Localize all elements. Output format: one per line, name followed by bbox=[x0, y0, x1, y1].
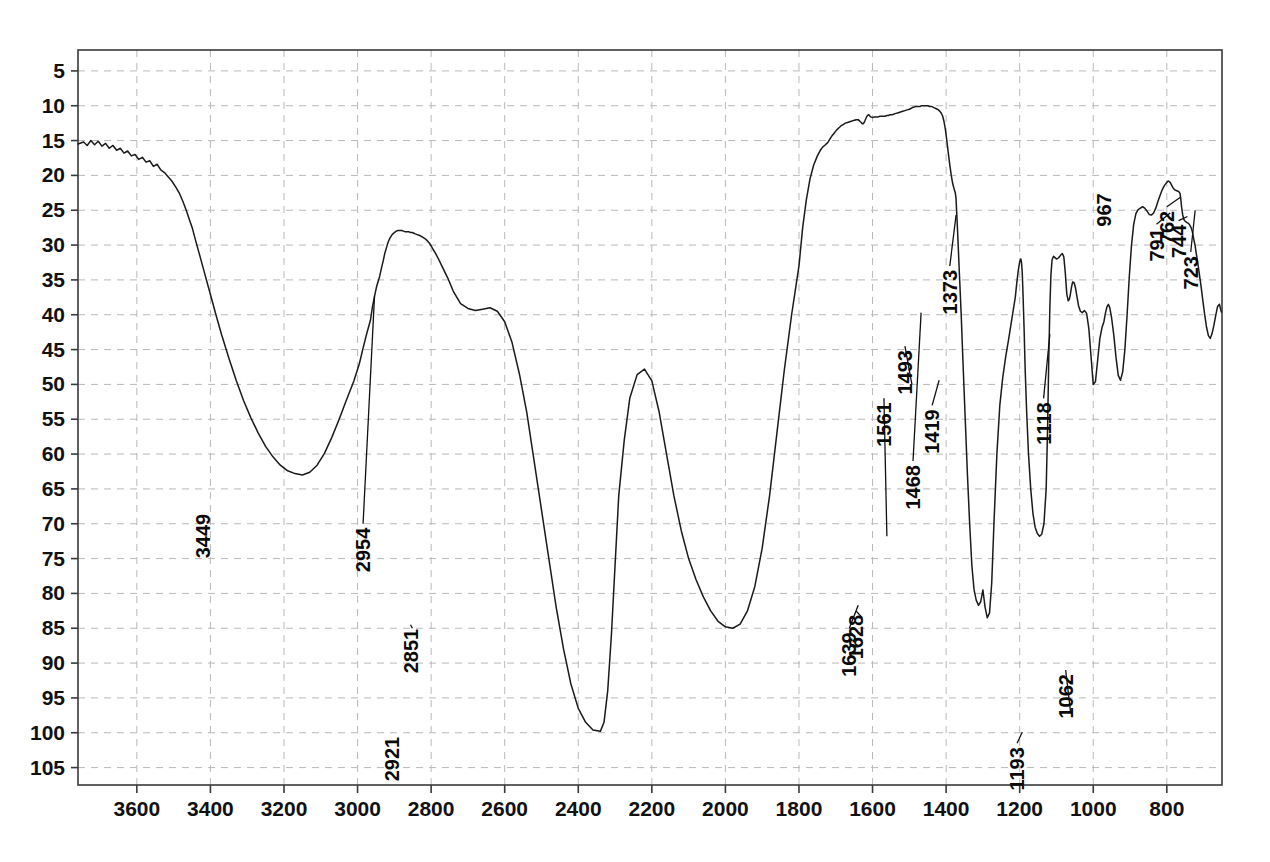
x-tick-label: 3200 bbox=[261, 797, 308, 820]
y-tick-label: 80 bbox=[42, 581, 65, 604]
x-tick-label: 2400 bbox=[555, 797, 602, 820]
peak-label: 1493 bbox=[894, 350, 916, 395]
y-tick-label: 15 bbox=[42, 129, 66, 152]
peak-label: 1373 bbox=[939, 270, 961, 315]
x-tick-label: 1000 bbox=[1070, 797, 1117, 820]
y-tick-label: 10 bbox=[42, 94, 65, 117]
x-axis-tick-labels: 3600340032003000280026002400220020001800… bbox=[113, 797, 1184, 820]
x-tick-label: 1600 bbox=[849, 797, 896, 820]
peak-label: 1561 bbox=[873, 402, 895, 447]
x-tick-label: 2200 bbox=[628, 797, 675, 820]
peak-label: 1062 bbox=[1055, 674, 1077, 719]
y-tick-label: 85 bbox=[42, 616, 66, 639]
peak-label: 1468 bbox=[902, 465, 924, 510]
x-tick-label: 2800 bbox=[408, 797, 455, 820]
y-tick-label: 45 bbox=[42, 338, 66, 361]
y-tick-label: 50 bbox=[42, 372, 65, 395]
y-tick-label: 20 bbox=[42, 163, 65, 186]
peak-label: 2851 bbox=[400, 629, 422, 674]
x-tick-label: 3600 bbox=[113, 797, 160, 820]
x-tick-label: 1800 bbox=[776, 797, 823, 820]
y-tick-label: 25 bbox=[42, 198, 66, 221]
peak-label: 1118 bbox=[1033, 402, 1055, 444]
x-tick-label: 2000 bbox=[702, 797, 749, 820]
peak-label: 2954 bbox=[352, 527, 374, 572]
peak-label: 967 bbox=[1093, 193, 1115, 226]
peak-label: 744 bbox=[1168, 224, 1190, 258]
x-tick-label: 800 bbox=[1149, 797, 1184, 820]
peak-label: 723 bbox=[1180, 256, 1202, 289]
peak-label: 1419 bbox=[921, 409, 943, 454]
y-tick-label: 5 bbox=[53, 59, 65, 82]
y-tick-label: 70 bbox=[42, 512, 65, 535]
y-tick-label: 75 bbox=[42, 547, 66, 570]
x-tick-label: 1400 bbox=[923, 797, 970, 820]
peak-label: 2921 bbox=[382, 737, 404, 782]
x-tick-label: 3400 bbox=[187, 797, 234, 820]
ir-spectrum-figure: 1051009590858075706560555045403530252015… bbox=[0, 0, 1270, 862]
y-tick-label: 105 bbox=[30, 756, 65, 779]
y-tick-label: 95 bbox=[42, 686, 66, 709]
x-tick-label: 3000 bbox=[334, 797, 381, 820]
y-tick-label: 90 bbox=[42, 651, 65, 674]
x-tick-label: 2600 bbox=[481, 797, 528, 820]
peak-label: 1628 bbox=[845, 615, 867, 660]
x-tick-label: 1200 bbox=[996, 797, 1043, 820]
spectrum-canvas: 1051009590858075706560555045403530252015… bbox=[0, 0, 1270, 862]
y-tick-label: 60 bbox=[42, 442, 65, 465]
peak-label: 3449 bbox=[192, 514, 214, 559]
y-tick-label: 65 bbox=[42, 477, 66, 500]
y-tick-label: 40 bbox=[42, 303, 65, 326]
y-tick-label: 35 bbox=[42, 268, 66, 291]
peak-label: 1193 bbox=[1006, 747, 1028, 790]
y-tick-label: 100 bbox=[30, 721, 65, 744]
y-tick-label: 30 bbox=[42, 233, 65, 256]
y-tick-label: 55 bbox=[42, 407, 66, 430]
